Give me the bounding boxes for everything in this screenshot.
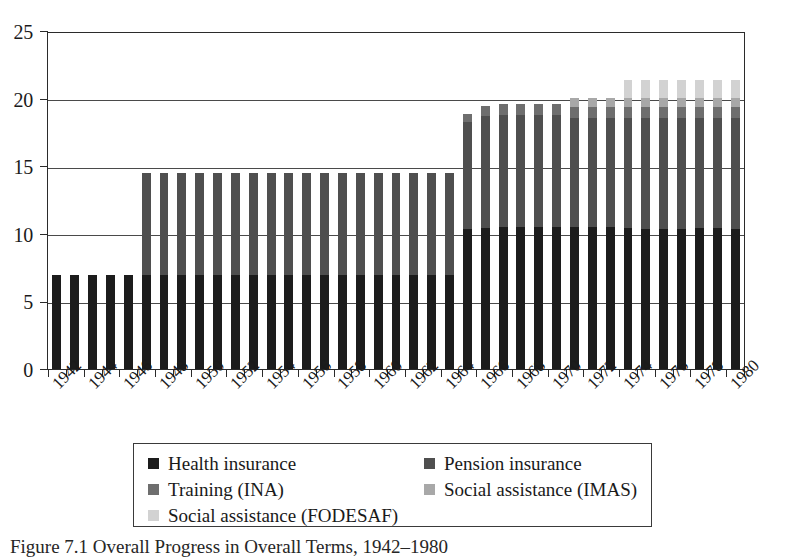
bar-column xyxy=(570,98,579,369)
bar-segment xyxy=(231,275,240,369)
bar-column xyxy=(624,80,633,369)
bar-segment xyxy=(374,275,383,369)
bar-segment xyxy=(516,115,525,227)
x-tick-mark xyxy=(405,370,406,377)
x-tick-mark xyxy=(619,370,620,377)
bar-segment xyxy=(552,104,561,115)
bar-segment xyxy=(445,275,454,369)
bar-column xyxy=(338,173,347,369)
bar-segment xyxy=(177,275,186,369)
bar-column xyxy=(52,275,61,369)
bar-segment xyxy=(713,228,722,369)
bar-segment xyxy=(231,173,240,275)
bar-segment xyxy=(284,275,293,369)
bar-column xyxy=(695,80,704,369)
bar-segment xyxy=(552,227,561,369)
bar-segment xyxy=(320,275,329,369)
bar-segment xyxy=(695,118,704,228)
bar-segment xyxy=(624,228,633,369)
bar-segment xyxy=(570,98,579,107)
bar-column xyxy=(284,173,293,369)
bar-column xyxy=(70,275,79,369)
bar-column xyxy=(231,173,240,369)
y-tick-label: 25 xyxy=(1,22,33,42)
legend-item[interactable]: Health insurance xyxy=(148,454,424,473)
bar-column xyxy=(356,173,365,369)
bar-column xyxy=(160,173,169,369)
bar-segment xyxy=(731,107,740,118)
bar-segment xyxy=(338,275,347,369)
figure-caption: Figure 7.1 Overall Progress in Overall T… xyxy=(10,536,448,557)
y-tick-label: 0 xyxy=(1,360,33,380)
bar-column xyxy=(713,80,722,369)
legend-swatch-icon xyxy=(148,510,159,521)
bar-column xyxy=(267,173,276,369)
bar-segment xyxy=(570,107,579,118)
bar-segment xyxy=(641,80,650,97)
bar-column xyxy=(731,80,740,369)
bar-segment xyxy=(624,80,633,97)
bar-segment xyxy=(338,173,347,275)
bar-segment xyxy=(713,107,722,118)
bar-segment xyxy=(588,107,597,118)
bar-segment xyxy=(534,104,543,115)
bar-segment xyxy=(695,107,704,118)
figure-container: 0510152025 19421944194619481950195219541… xyxy=(0,0,809,558)
bar-column xyxy=(213,173,222,369)
bar-column xyxy=(588,98,597,369)
x-tick-mark xyxy=(476,370,477,377)
bar-segment xyxy=(713,80,722,97)
bar-column xyxy=(374,173,383,369)
y-tick-label: 20 xyxy=(1,90,33,110)
bar-segment xyxy=(677,80,686,97)
bar-segment xyxy=(463,122,472,230)
legend-item[interactable]: Training (INA) xyxy=(148,480,424,499)
bar-segment xyxy=(481,116,490,228)
bar-segment xyxy=(499,115,508,227)
legend-label: Social assistance (IMAS) xyxy=(444,480,637,499)
bar-column xyxy=(516,104,525,369)
bar-segment xyxy=(713,118,722,228)
bar-segment xyxy=(641,107,650,118)
bar-segment xyxy=(588,98,597,107)
bar-segment xyxy=(481,106,490,117)
x-tick-mark xyxy=(262,370,263,377)
legend-row: Social assistance (FODESAF) xyxy=(148,502,651,528)
legend-item[interactable]: Social assistance (FODESAF) xyxy=(148,506,424,525)
bar-segment xyxy=(267,173,276,275)
bar-segment xyxy=(606,98,615,107)
legend-swatch-icon xyxy=(148,484,159,495)
bar-segment xyxy=(731,98,740,107)
bar-column xyxy=(463,114,472,369)
bar-segment xyxy=(695,80,704,97)
bar-segment xyxy=(624,107,633,118)
bar-segment xyxy=(570,227,579,369)
bar-segment xyxy=(320,173,329,275)
bar-column xyxy=(142,173,151,369)
bar-segment xyxy=(70,275,79,369)
bar-segment xyxy=(267,275,276,369)
bar-segment xyxy=(124,275,133,369)
bar-segment xyxy=(213,173,222,275)
bar-segment xyxy=(624,98,633,107)
bar-segment xyxy=(534,115,543,227)
bar-column xyxy=(534,104,543,369)
bar-segment xyxy=(177,173,186,275)
bar-column xyxy=(552,104,561,369)
bar-segment xyxy=(499,227,508,369)
bar-column xyxy=(606,98,615,369)
bar-column xyxy=(195,173,204,369)
legend-item[interactable]: Social assistance (IMAS) xyxy=(424,480,637,499)
legend-swatch-icon xyxy=(424,458,435,469)
bar-column xyxy=(481,106,490,369)
bar-segment xyxy=(302,275,311,369)
bar-segment xyxy=(570,118,579,227)
bar-segment xyxy=(445,173,454,275)
bar-column xyxy=(88,275,97,369)
bar-segment xyxy=(641,229,650,369)
bar-column xyxy=(302,173,311,369)
legend-item[interactable]: Pension insurance xyxy=(424,454,582,473)
bar-segment xyxy=(463,114,472,122)
bar-segment xyxy=(427,275,436,369)
bar-segment xyxy=(641,98,650,107)
